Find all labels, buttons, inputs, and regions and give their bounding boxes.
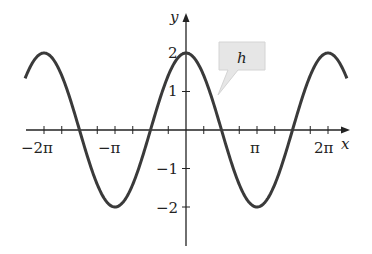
axes [26, 13, 350, 246]
plot-area: h y x −2π −π π 2π 2 1 −1 −2 [0, 0, 372, 254]
chart: h y x −2π −π π 2π 2 1 −1 −2 [0, 0, 372, 254]
callout-h: h [218, 42, 265, 95]
y-tick-label: −1 [156, 160, 178, 178]
x-tick-label: 2π [314, 139, 334, 157]
x-axis-label: x [341, 135, 350, 153]
callout-label: h [237, 49, 247, 67]
x-tick-label: π [250, 139, 260, 157]
x-tick-label: −π [98, 139, 121, 157]
y-axis-label: y [169, 8, 179, 26]
y-tick-label: 1 [168, 82, 178, 100]
y-tick-label: 2 [168, 44, 178, 62]
x-tick-label: −2π [21, 139, 53, 157]
y-tick-label: −2 [156, 199, 178, 217]
